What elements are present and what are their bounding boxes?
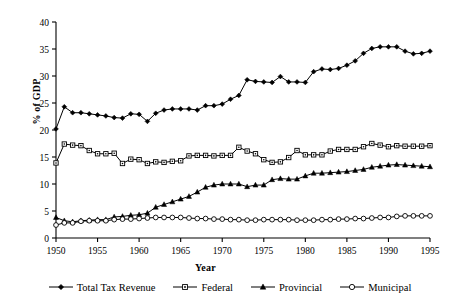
marker-square-dot bbox=[88, 150, 90, 152]
marker-square-dot bbox=[138, 159, 140, 161]
marker-square-dot bbox=[271, 162, 273, 164]
legend-item-total-tax-revenue[interactable]: Total Tax Revenue bbox=[48, 281, 156, 293]
marker-circle bbox=[245, 218, 250, 223]
x-tick-label: 1950 bbox=[47, 246, 66, 256]
marker-diamond bbox=[187, 107, 192, 112]
marker-diamond bbox=[394, 44, 399, 49]
marker-circle bbox=[369, 216, 374, 221]
marker-circle bbox=[353, 216, 358, 221]
marker-circle bbox=[103, 218, 108, 223]
marker-square-dot bbox=[188, 155, 190, 157]
marker-square-dot bbox=[172, 161, 174, 163]
marker-circle bbox=[311, 218, 316, 223]
marker-square-dot bbox=[196, 155, 198, 157]
marker-circle bbox=[303, 218, 308, 223]
legend-item-municipal[interactable]: Municipal bbox=[339, 281, 411, 293]
marker-square-dot bbox=[329, 150, 331, 152]
marker-circle bbox=[203, 216, 208, 221]
marker-diamond bbox=[95, 113, 100, 118]
marker-square-dot bbox=[429, 145, 431, 147]
marker-square-dot bbox=[363, 146, 365, 148]
marker-diamond bbox=[386, 44, 391, 49]
marker-square-dot bbox=[354, 149, 356, 151]
marker-circle bbox=[320, 217, 325, 222]
x-tick-label: 1990 bbox=[379, 246, 398, 256]
marker-square-dot bbox=[313, 154, 315, 156]
marker-diamond bbox=[411, 51, 416, 56]
x-tick-label: 1980 bbox=[296, 246, 315, 256]
marker-circle bbox=[178, 215, 183, 220]
x-tick-label: 1960 bbox=[130, 246, 149, 256]
marker-circle bbox=[79, 219, 84, 224]
marker-circle bbox=[336, 217, 341, 222]
marker-square-dot bbox=[155, 161, 157, 163]
y-tick-label: 10 bbox=[40, 180, 50, 190]
marker-diamond bbox=[120, 116, 125, 121]
marker-diamond bbox=[253, 79, 258, 84]
marker-diamond bbox=[228, 97, 233, 102]
marker-square-dot bbox=[388, 146, 390, 148]
marker-circle bbox=[270, 217, 275, 222]
marker-diamond bbox=[245, 77, 250, 82]
series-total-tax-revenue bbox=[54, 44, 433, 131]
marker-circle bbox=[54, 223, 59, 228]
marker-square-dot bbox=[64, 143, 66, 145]
marker-diamond bbox=[79, 110, 84, 115]
legend-marker-open-square bbox=[172, 281, 198, 293]
series-federal bbox=[54, 141, 432, 165]
marker-circle bbox=[286, 217, 291, 222]
marker-circle bbox=[361, 216, 366, 221]
x-tick-label: 1995 bbox=[421, 246, 440, 256]
legend-marker-open-circle bbox=[339, 281, 365, 293]
marker-circle bbox=[220, 217, 225, 222]
marker-square-dot bbox=[379, 144, 381, 146]
marker-diamond bbox=[58, 284, 63, 289]
marker-diamond bbox=[378, 44, 383, 49]
marker-circle bbox=[70, 221, 75, 226]
series-line bbox=[56, 165, 430, 222]
marker-triangle bbox=[145, 210, 150, 215]
marker-circle bbox=[236, 217, 241, 222]
marker-circle bbox=[419, 213, 424, 218]
marker-diamond bbox=[328, 67, 333, 72]
marker-circle bbox=[428, 213, 433, 218]
marker-square-dot bbox=[338, 149, 340, 151]
marker-circle bbox=[378, 215, 383, 220]
marker-diamond bbox=[128, 111, 133, 116]
legend-marker-filled-diamond bbox=[48, 281, 74, 293]
legend-item-provincial[interactable]: Provincial bbox=[250, 281, 322, 293]
legend-marker-filled-triangle bbox=[250, 281, 276, 293]
marker-square-dot bbox=[404, 145, 406, 147]
marker-circle bbox=[345, 217, 350, 222]
chart-figure: 0510152025303540195019551960196519701975… bbox=[0, 0, 459, 307]
legend-label: Provincial bbox=[279, 282, 322, 293]
marker-circle bbox=[394, 214, 399, 219]
marker-square-dot bbox=[263, 159, 265, 161]
marker-circle bbox=[328, 217, 333, 222]
marker-square-dot bbox=[163, 162, 165, 164]
marker-diamond bbox=[261, 80, 266, 85]
marker-diamond bbox=[345, 63, 350, 68]
x-tick-label: 1965 bbox=[171, 246, 190, 256]
marker-diamond bbox=[162, 108, 167, 113]
marker-diamond bbox=[212, 103, 217, 108]
series-municipal bbox=[54, 213, 433, 227]
marker-diamond bbox=[54, 127, 59, 132]
marker-diamond bbox=[87, 111, 92, 116]
marker-circle bbox=[170, 215, 175, 220]
x-tick-label: 1985 bbox=[337, 246, 356, 256]
marker-diamond bbox=[103, 114, 108, 119]
marker-circle bbox=[153, 215, 158, 220]
marker-circle bbox=[187, 216, 192, 221]
marker-circle bbox=[212, 217, 217, 222]
marker-circle bbox=[120, 217, 125, 222]
chart-canvas: 0510152025303540195019551960196519701975… bbox=[0, 0, 459, 307]
marker-circle bbox=[350, 284, 355, 289]
x-tick-label: 1970 bbox=[213, 246, 232, 256]
marker-square-dot bbox=[371, 143, 373, 145]
marker-square-dot bbox=[296, 150, 298, 152]
legend-item-federal[interactable]: Federal bbox=[172, 281, 233, 293]
legend-label: Municipal bbox=[368, 282, 411, 293]
marker-diamond bbox=[178, 107, 183, 112]
marker-square-dot bbox=[421, 145, 423, 147]
